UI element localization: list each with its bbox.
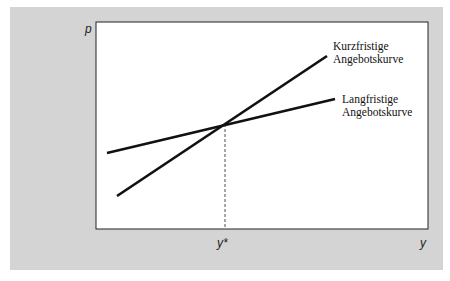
long-run-label-line1: Langfristige <box>342 93 412 106</box>
short-run-label-line2: Angebotskurve <box>333 53 403 66</box>
y-axis-label: p <box>85 22 92 36</box>
short-run-label: Kurzfristige Angebotskurve <box>333 40 403 66</box>
x-marker-label: y* <box>217 236 228 250</box>
x-axis-label: y <box>420 236 426 250</box>
short-run-label-line1: Kurzfristige <box>333 40 403 53</box>
long-run-label: Langfristige Angebotskurve <box>342 93 412 119</box>
long-run-label-line2: Angebotskurve <box>342 106 412 119</box>
